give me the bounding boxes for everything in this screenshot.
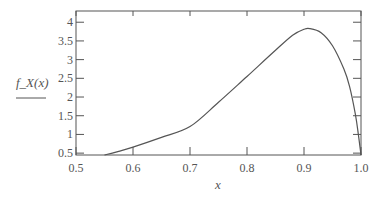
y-axis-label-text: f_X(x) [16,75,48,90]
x-tick-label: 0.8 [240,161,255,175]
y-axis-ticks: 0.511.522.533.54 [58,15,361,160]
y-axis-label: f_X(x) [16,75,48,98]
y-tick-label: 2 [67,90,73,104]
y-tick-label: 1 [67,127,73,141]
x-axis-label: x [214,177,221,192]
y-tick-label: 1.5 [58,109,73,123]
x-tick-label: 0.7 [183,161,198,175]
y-tick-label: 4 [67,15,73,29]
x-axis-ticks: 0.50.60.70.80.91.0 [69,11,369,175]
x-tick-label: 0.6 [126,161,141,175]
plot-frame [76,11,361,155]
x-tick-label: 1.0 [354,161,369,175]
y-tick-label: 2.5 [58,71,73,85]
x-tick-label: 0.5 [69,161,84,175]
plot-border [76,11,361,155]
y-tick-label: 3 [67,53,73,67]
y-tick-label: 0.5 [58,146,73,160]
density-curve [105,28,362,155]
y-tick-label: 3.5 [58,34,73,48]
x-tick-label: 0.9 [297,161,312,175]
chart: 0.511.522.533.54 0.50.60.70.80.91.0 f_X(… [0,0,377,198]
